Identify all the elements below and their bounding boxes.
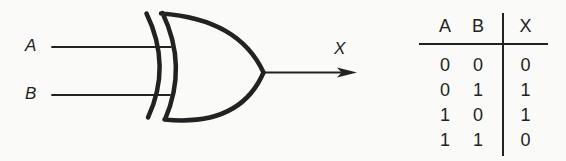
xor-gate-body [161, 13, 264, 120]
input-a-label: A [25, 36, 36, 56]
truth-table-cell: 0 [460, 53, 496, 78]
truth-table-header-x: X [496, 16, 555, 36]
input-b-label: B [25, 84, 36, 104]
truth-table-cell: 1 [496, 103, 555, 128]
truth-table-cell: 0 [460, 103, 496, 128]
truth-table-cell: 1 [460, 78, 496, 103]
truth-table-header-rule [419, 43, 548, 45]
truth-table-cell: 1 [496, 78, 555, 103]
truth-table-header-b: B [460, 16, 496, 36]
truth-table-cell: 0 [430, 53, 460, 78]
truth-table-header-a: A [430, 16, 460, 36]
output-x-label: X [334, 39, 345, 59]
truth-table-cell: 1 [430, 128, 460, 153]
truth-table-header: A B X [430, 16, 555, 36]
truth-table-cell: 1 [430, 103, 460, 128]
xor-input-curve [147, 14, 160, 118]
truth-table-cell: 1 [460, 128, 496, 153]
truth-table-cell: 0 [430, 78, 460, 103]
xor-gate-figure: A B X A B X 0 0 0 0 1 1 1 0 1 1 1 0 [0, 0, 566, 161]
truth-table-body: 0 0 0 0 1 1 1 0 1 1 1 0 [430, 53, 555, 153]
truth-table-cell: 0 [496, 128, 555, 153]
truth-table-cell: 0 [496, 53, 555, 78]
